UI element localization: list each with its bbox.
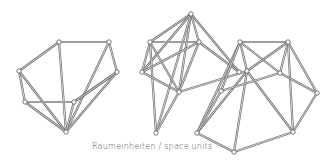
node-M4 bbox=[140, 70, 144, 74]
strut-right-R8-R9 bbox=[234, 132, 293, 152]
strut-left-B-D bbox=[109, 42, 117, 72]
strut-middle-M6-M7 bbox=[156, 92, 179, 133]
node-A bbox=[57, 40, 61, 44]
node-G bbox=[64, 130, 68, 134]
strut-right-R6-R7 bbox=[197, 91, 221, 133]
node-M7 bbox=[154, 131, 158, 135]
node-R9 bbox=[232, 150, 236, 154]
node-F bbox=[72, 100, 76, 104]
node-D bbox=[115, 70, 119, 74]
node-R5 bbox=[315, 91, 319, 95]
node-B bbox=[107, 40, 111, 44]
node-M6 bbox=[177, 90, 181, 94]
strut-left-A-C bbox=[19, 42, 59, 71]
node-C bbox=[17, 69, 21, 73]
node-R3 bbox=[245, 69, 249, 73]
node-M2 bbox=[148, 40, 152, 44]
node-M1 bbox=[189, 12, 193, 16]
node-M5 bbox=[237, 70, 241, 74]
node-R1 bbox=[238, 40, 242, 44]
strut-right-R2-R8 bbox=[288, 42, 293, 132]
node-M3 bbox=[197, 40, 201, 44]
strut-left-B-G bbox=[66, 42, 109, 132]
node-R7 bbox=[195, 131, 199, 135]
node-R4 bbox=[278, 71, 282, 75]
node-R8 bbox=[291, 130, 295, 134]
strut-right-R5-R8 bbox=[293, 93, 317, 132]
strut-middle-M6-R3 bbox=[179, 71, 247, 92]
node-E bbox=[23, 100, 27, 104]
caption: Raumeinheiten / space units bbox=[92, 141, 212, 151]
node-R6 bbox=[219, 89, 223, 93]
strut-left-A-G bbox=[59, 42, 66, 132]
node-R2 bbox=[286, 40, 290, 44]
